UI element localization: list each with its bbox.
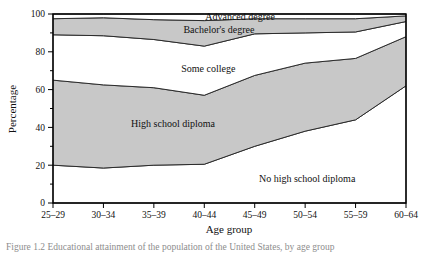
x-tick-label: 45–49 xyxy=(243,210,267,220)
band-label-1: High school diploma xyxy=(131,118,215,129)
band-label-2: Some college xyxy=(181,63,236,74)
x-tick-label: 60–64 xyxy=(394,210,418,220)
y-tick-label: 100 xyxy=(31,9,46,19)
y-tick-label: 40 xyxy=(36,123,46,133)
x-tick-label: 55–59 xyxy=(344,210,368,220)
x-axis-ticks xyxy=(53,203,406,208)
y-axis-title: Percentage xyxy=(6,85,18,133)
y-tick-label: 0 xyxy=(40,198,45,208)
band-label-3: Bachelor's degree xyxy=(183,24,254,35)
y-tick-label: 80 xyxy=(36,47,46,57)
x-tick-label: 35–39 xyxy=(142,210,166,220)
x-axis-tick-labels: 25–2930–3435–3940–4445–4950–5455–5960–64 xyxy=(41,210,418,220)
x-tick-label: 25–29 xyxy=(41,210,65,220)
x-tick-label: 50–54 xyxy=(293,210,317,220)
y-tick-label: 20 xyxy=(36,161,46,171)
x-tick-label: 40–44 xyxy=(192,210,216,220)
figure-caption: Figure 1.2 Educational attainment of the… xyxy=(6,241,431,253)
stacked-area-chart: 020406080100 25–2930–3435–3940–4445–4950… xyxy=(0,0,435,254)
figure-container: 020406080100 25–2930–3435–3940–4445–4950… xyxy=(0,0,435,254)
x-axis-title: Age group xyxy=(206,223,253,235)
x-tick-label: 30–34 xyxy=(92,210,116,220)
y-tick-label: 60 xyxy=(36,85,46,95)
band-label-4: Advanced degree xyxy=(205,11,275,22)
y-axis-ticks xyxy=(48,14,53,203)
band-label-0: No high school diploma xyxy=(259,173,356,184)
y-axis-tick-labels: 020406080100 xyxy=(31,9,46,208)
